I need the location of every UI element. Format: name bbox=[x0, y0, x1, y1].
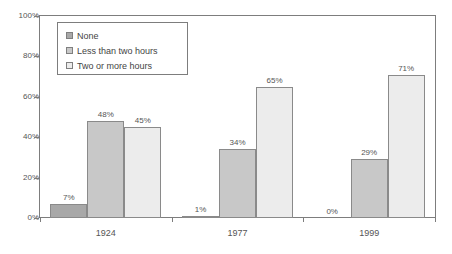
y-axis-tick-mark bbox=[34, 137, 39, 138]
bar-value-label: 48% bbox=[87, 110, 124, 119]
x-axis-category-label: 1977 bbox=[172, 228, 304, 238]
legend-item-less-than-two-hours: Less than two hours bbox=[66, 43, 187, 58]
bar-chart: 0%20%40%60%80%100% 7%48%45%1%34%65%0%29%… bbox=[0, 0, 452, 254]
bar bbox=[50, 204, 87, 218]
x-axis-category-label: 1999 bbox=[303, 228, 435, 238]
bar bbox=[219, 149, 256, 218]
bar bbox=[182, 216, 219, 218]
legend-swatch-two-or-more-hours bbox=[66, 62, 73, 69]
bar-value-label: 34% bbox=[219, 138, 256, 147]
bar bbox=[351, 159, 388, 218]
chart-title-clipped bbox=[0, 0, 452, 9]
legend-label-two-or-more-hours: Two or more hours bbox=[77, 61, 152, 71]
bar-value-label: 65% bbox=[256, 76, 293, 85]
bar-value-label: 0% bbox=[314, 207, 351, 216]
y-axis-tick-mark bbox=[34, 16, 39, 17]
bar-value-label: 45% bbox=[124, 116, 161, 125]
legend-item-none: None bbox=[66, 28, 187, 43]
y-axis-tick-mark bbox=[34, 56, 39, 57]
bar-value-label: 71% bbox=[388, 64, 425, 73]
x-axis-tick-mark bbox=[172, 218, 173, 222]
x-axis-category-label: 1924 bbox=[40, 228, 172, 238]
chart-legend: None Less than two hours Two or more hou… bbox=[57, 22, 188, 75]
legend-item-two-or-more-hours: Two or more hours bbox=[66, 58, 187, 73]
x-axis-tick-mark bbox=[303, 218, 304, 222]
y-axis-tick-mark bbox=[34, 218, 39, 219]
legend-label-none: None bbox=[77, 31, 99, 41]
legend-label-less-than-two-hours: Less than two hours bbox=[77, 46, 158, 56]
bar-value-label: 1% bbox=[182, 205, 219, 214]
bar bbox=[124, 127, 161, 218]
legend-swatch-none bbox=[66, 32, 73, 39]
y-axis: 0%20%40%60%80%100% bbox=[0, 0, 39, 254]
bar bbox=[388, 75, 425, 218]
bar bbox=[87, 121, 124, 218]
x-axis-tick-mark bbox=[40, 218, 41, 222]
bar bbox=[256, 87, 293, 218]
bar-value-label: 29% bbox=[351, 148, 388, 157]
legend-swatch-less-than-two-hours bbox=[66, 47, 73, 54]
x-axis-tick-mark bbox=[435, 218, 436, 222]
y-axis-tick-mark bbox=[34, 178, 39, 179]
bar-value-label: 7% bbox=[50, 193, 87, 202]
y-axis-tick-mark bbox=[34, 97, 39, 98]
